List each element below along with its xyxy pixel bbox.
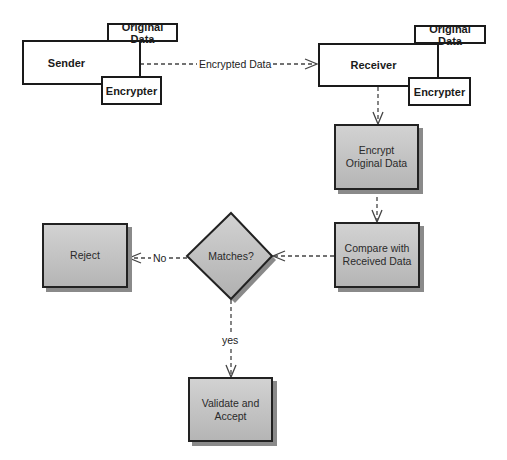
sender-original-data-box: Original Data [107, 23, 178, 42]
process-validate-accept-label: Validate and Accept [196, 397, 265, 423]
receiver-original-data-label: Original Data [416, 23, 484, 47]
process-reject-label: Reject [70, 249, 100, 262]
receiver-original-data-box: Original Data [414, 25, 486, 44]
process-encrypt-original-data-label: Encrypt Original Data [342, 144, 411, 170]
receiver-label: Receiver [351, 59, 397, 71]
receiver-encrypter-label: Encrypter [414, 86, 465, 98]
flowchart-canvas: Sender Original Data Encrypter Encrypted… [0, 0, 507, 460]
process-validate-accept: Validate and Accept [188, 377, 273, 442]
sender-encrypter-label: Encrypter [106, 85, 157, 97]
process-encrypt-original-data: Encrypt Original Data [334, 124, 419, 190]
sender-encrypter-box: Encrypter [101, 76, 162, 105]
decision-matches-label: Matches? [191, 250, 271, 262]
process-compare-received-data-label: Compare with Received Data [342, 242, 412, 268]
process-reject: Reject [42, 223, 128, 288]
edge-label-no: No [151, 252, 168, 264]
process-compare-received-data: Compare with Received Data [334, 222, 420, 288]
edge-receiver-to-encrypt [373, 87, 383, 124]
edge-label-encrypted-data: Encrypted Data [197, 58, 273, 70]
sender-label: Sender [48, 57, 85, 69]
receiver-encrypter-box: Encrypter [408, 77, 471, 106]
sender-original-data-label: Original Data [109, 21, 176, 45]
edge-label-yes: yes [220, 334, 240, 346]
edge-encrypt-to-compare [372, 190, 382, 222]
edge-compare-to-matches [273, 251, 334, 261]
